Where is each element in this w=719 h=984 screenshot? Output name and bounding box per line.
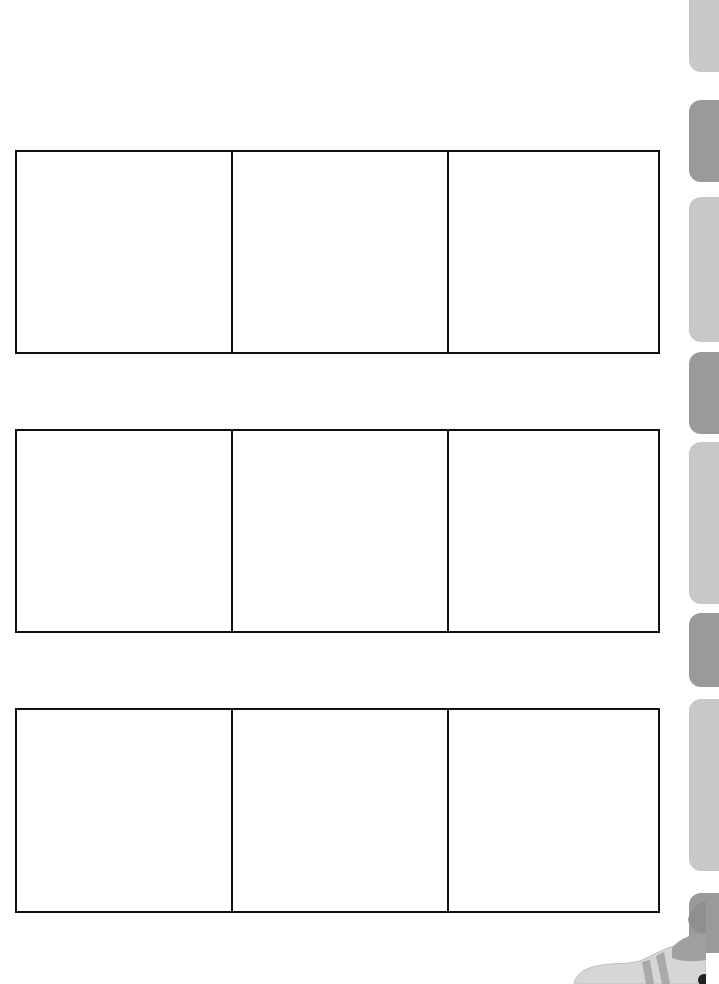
panel-cell <box>231 431 447 631</box>
panel-grid-row-3 <box>15 708 660 913</box>
panel-cell <box>447 710 658 911</box>
side-tab <box>689 699 719 871</box>
panel-cell <box>17 152 231 352</box>
side-tab <box>689 352 719 434</box>
panel-cell <box>17 710 231 911</box>
side-tab <box>689 100 719 182</box>
panel-cell <box>447 431 658 631</box>
panel-cell <box>17 431 231 631</box>
panel-cell <box>231 152 447 352</box>
panel-grid-row-1 <box>15 150 660 354</box>
panel-grid-row-2 <box>15 429 660 633</box>
cat-paw-illustration-icon <box>570 890 706 984</box>
side-tab <box>689 613 719 687</box>
panel-cell <box>231 710 447 911</box>
side-tab <box>689 197 719 342</box>
panel-cell <box>447 152 658 352</box>
side-tab <box>689 442 719 604</box>
side-tab <box>689 0 719 72</box>
